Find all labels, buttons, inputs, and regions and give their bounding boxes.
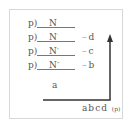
result-label: abcd (p) (82, 103, 120, 113)
